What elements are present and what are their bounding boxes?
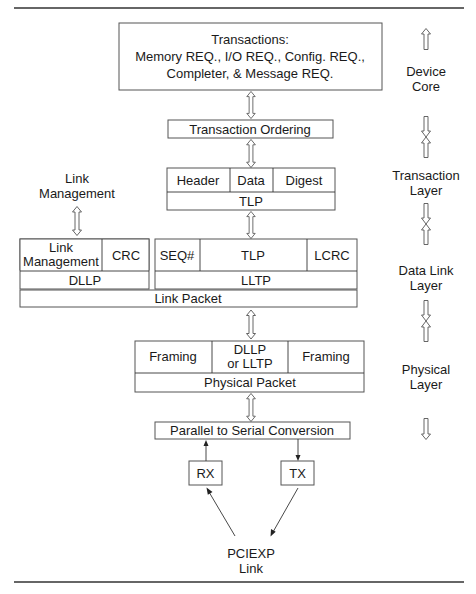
physical-packet: Framing DLLP or LLTP Framing Physical Pa… — [135, 341, 364, 392]
svg-text:Physical: Physical — [402, 362, 451, 377]
svg-text:Management: Management — [39, 186, 115, 201]
dllp-packet: Link Management CRC DLLP — [20, 239, 149, 289]
link-packet-label: Link Packet — [154, 291, 222, 306]
physical-field-framing-right: Framing — [302, 349, 350, 364]
tlp-label: TLP — [239, 194, 263, 209]
link-packet: Link Packet — [20, 290, 357, 307]
physical-field-dllp-2: or LLTP — [227, 356, 272, 371]
lltp-field-lcrc: LCRC — [314, 248, 349, 263]
physical-packet-label: Physical Packet — [204, 375, 296, 390]
pciexp-link-label: PCIEXP Link — [227, 546, 275, 576]
lltp-field-tlp: TLP — [241, 248, 265, 263]
physical-field-framing-left: Framing — [149, 349, 197, 364]
tlp-field-digest: Digest — [286, 173, 323, 188]
double-arrow-icon — [73, 207, 82, 236]
tlp-packet: Header Data Digest TLP — [167, 168, 335, 210]
transaction-ordering-box: Transaction Ordering — [168, 120, 333, 138]
layer-transaction: Transaction Layer — [392, 168, 459, 198]
double-arrow-icon — [247, 393, 256, 421]
link-management-label: Link Management — [39, 171, 115, 201]
down-up-arrow-icon — [422, 117, 431, 158]
dllp-label: DLLP — [69, 273, 102, 288]
dllp-field-link-management-1: Link — [49, 240, 73, 255]
transactions-line-2: Memory REQ., I/O REQ., Config. REQ., — [135, 49, 365, 64]
svg-text:Transaction: Transaction — [392, 168, 459, 183]
svg-text:Layer: Layer — [410, 377, 443, 392]
down-arrow-icon — [422, 419, 431, 440]
up-arrow-icon — [422, 29, 431, 50]
transaction-ordering-label: Transaction Ordering — [189, 122, 311, 137]
rx-box: RX — [189, 461, 222, 485]
double-arrow-icon — [247, 139, 256, 167]
rx-label: RX — [196, 466, 214, 481]
dllp-field-crc: CRC — [112, 248, 140, 263]
transactions-line-3: Completer, & Message REQ. — [167, 66, 334, 81]
dllp-field-link-management-2: Management — [23, 254, 99, 269]
svg-text:Layer: Layer — [410, 278, 443, 293]
lltp-label: LLTP — [241, 273, 271, 288]
double-arrow-icon — [247, 91, 255, 118]
link-to-rx-arrow-icon — [207, 488, 236, 537]
svg-text:Link: Link — [239, 561, 263, 576]
transactions-box: Transactions: Memory REQ., I/O REQ., Con… — [119, 23, 382, 90]
tx-to-link-arrow-icon — [271, 488, 299, 537]
pcie-layer-diagram: Transactions: Memory REQ., I/O REQ., Con… — [0, 0, 476, 594]
lltp-field-seq: SEQ# — [160, 248, 195, 263]
tx-label: TX — [289, 466, 306, 481]
svg-text:Device: Device — [406, 64, 446, 79]
svg-text:Core: Core — [412, 79, 440, 94]
layer-physical: Physical Layer — [402, 362, 451, 392]
svg-text:Data Link: Data Link — [399, 263, 454, 278]
converter-to-tx-arrow-icon — [296, 439, 301, 461]
double-arrow-icon — [247, 310, 256, 339]
svg-text:PCIEXP: PCIEXP — [227, 546, 275, 561]
tx-box: TX — [281, 461, 314, 485]
down-up-arrow-icon — [422, 301, 431, 342]
tlp-field-header: Header — [177, 173, 220, 188]
rx-to-converter-arrow-icon — [204, 440, 209, 461]
svg-text:Link: Link — [65, 171, 89, 186]
transactions-title: Transactions: — [211, 32, 289, 47]
svg-text:Layer: Layer — [410, 183, 443, 198]
layer-device-core: Device Core — [406, 64, 446, 94]
down-up-arrow-icon — [422, 204, 431, 245]
parallel-to-serial-box: Parallel to Serial Conversion — [155, 422, 350, 439]
tlp-field-data: Data — [237, 173, 265, 188]
double-arrow-icon — [247, 211, 255, 238]
lltp-packet: SEQ# TLP LCRC LLTP — [155, 239, 357, 289]
parallel-to-serial-label: Parallel to Serial Conversion — [170, 423, 334, 438]
layer-data-link: Data Link Layer — [399, 263, 454, 293]
physical-field-dllp-1: DLLP — [234, 342, 267, 357]
